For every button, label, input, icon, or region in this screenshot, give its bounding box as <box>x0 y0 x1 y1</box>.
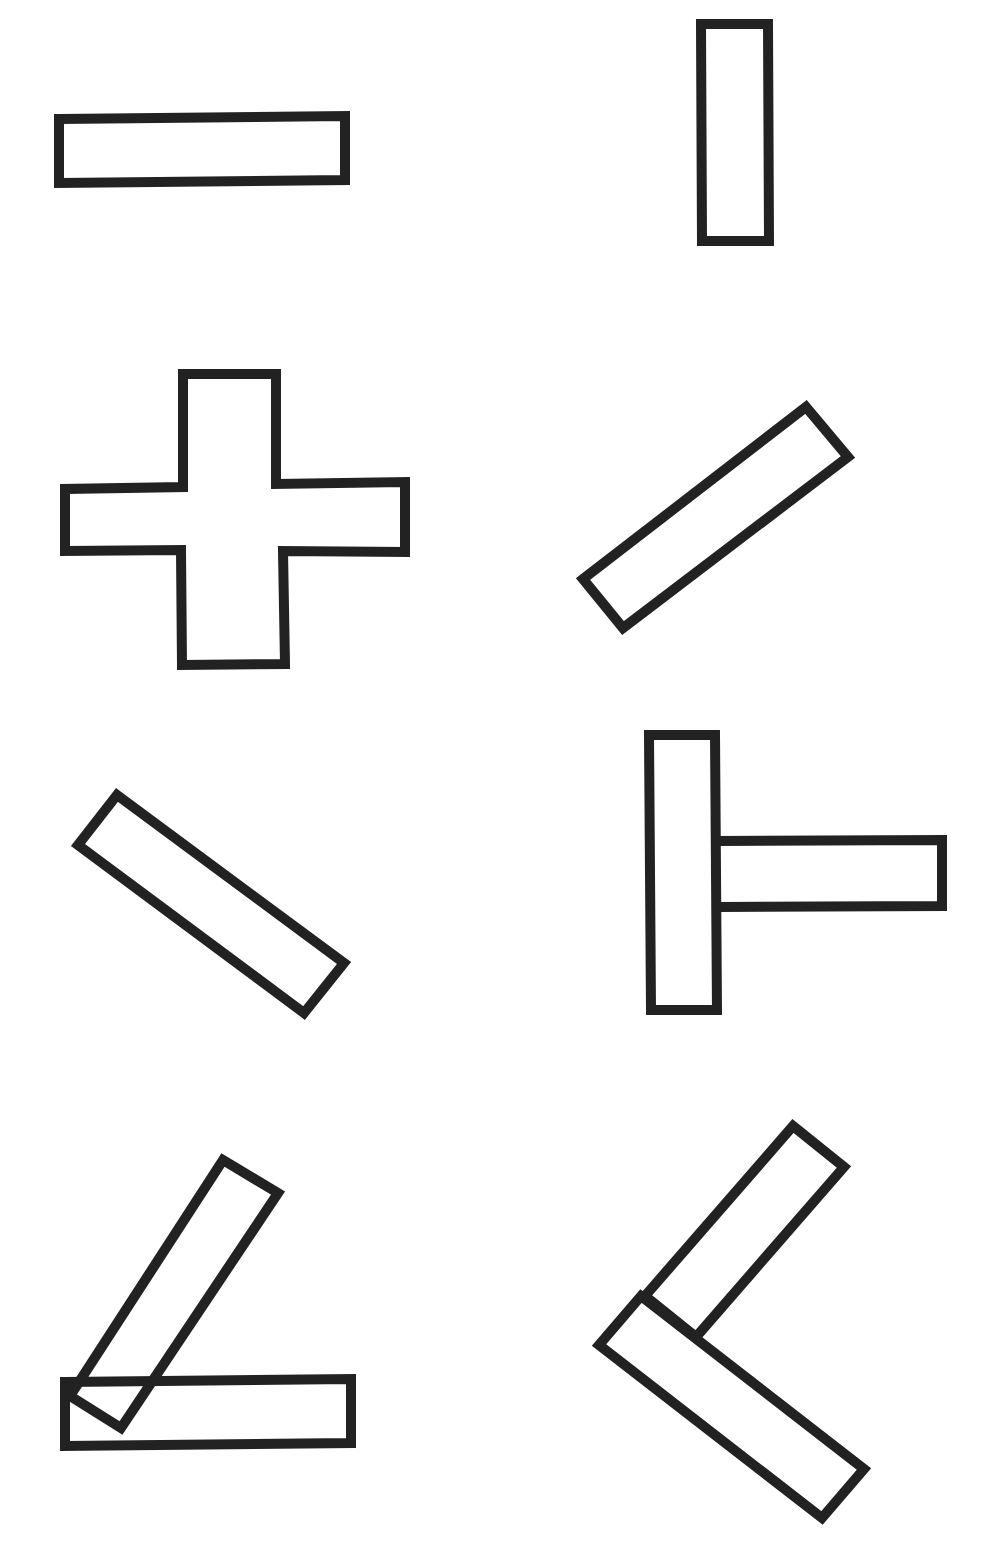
bar-horizontal-top-left-shape <box>59 116 345 183</box>
bar-vertical-top-right-shape <box>701 24 769 241</box>
diagram-canvas <box>0 0 982 1544</box>
t-shape-vertical-shape <box>649 735 717 1010</box>
background <box>0 0 982 1544</box>
angle-horizontal-bar-shape <box>65 1379 351 1446</box>
